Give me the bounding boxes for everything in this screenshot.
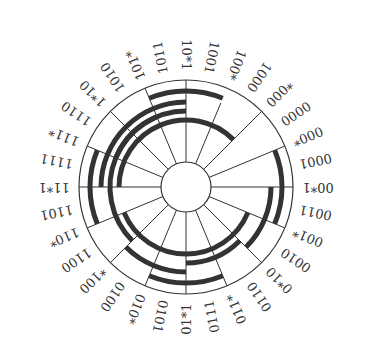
code-label: 111* bbox=[46, 123, 81, 149]
code-label: 0101 bbox=[150, 299, 171, 334]
code-label: 1111 bbox=[39, 151, 74, 172]
code-label: 0010 bbox=[278, 245, 314, 276]
code-label: 0001 bbox=[298, 151, 333, 172]
code-label: 1001 bbox=[201, 40, 222, 75]
spoke-line bbox=[209, 146, 285, 177]
code-label: 0000 bbox=[278, 98, 314, 129]
code-label: 11*1 bbox=[38, 180, 69, 195]
code-label: 101* bbox=[122, 47, 148, 82]
spoke-line bbox=[196, 103, 221, 164]
code-label: 1100 bbox=[58, 245, 94, 276]
code-label: 010* bbox=[122, 292, 148, 327]
inner-circle bbox=[161, 162, 211, 212]
code-label: *100 bbox=[76, 264, 109, 297]
code-label: 1010 bbox=[97, 59, 128, 95]
gray-code-wheel-diagram: 10*11001100*1000*0000000000*000100*10011… bbox=[0, 0, 367, 362]
code-label: 1*10 bbox=[76, 77, 109, 110]
code-label: 1101 bbox=[39, 202, 74, 223]
code-label: 0*10 bbox=[263, 264, 296, 297]
code-label: *000 bbox=[263, 77, 296, 110]
wheel-canvas: 10*11001100*1000*0000000000*000100*10011… bbox=[0, 0, 367, 362]
code-label: 100* bbox=[223, 48, 249, 83]
code-label: 10*1 bbox=[179, 39, 194, 70]
code-label: 011* bbox=[223, 291, 249, 326]
code-label: 01*1 bbox=[179, 303, 194, 334]
code-label: 1110 bbox=[58, 98, 94, 129]
code-label: 00*1 bbox=[302, 180, 333, 195]
code-label: 000* bbox=[290, 124, 325, 150]
code-label: 1011 bbox=[150, 40, 171, 75]
code-label: 0110 bbox=[244, 279, 275, 315]
code-label: 110* bbox=[46, 225, 81, 251]
code-label: 0011 bbox=[298, 202, 333, 223]
code-label: 001* bbox=[290, 224, 325, 250]
code-label: 0100 bbox=[97, 279, 128, 315]
code-label: 1000 bbox=[244, 59, 275, 95]
code-label: 0111 bbox=[201, 299, 222, 334]
